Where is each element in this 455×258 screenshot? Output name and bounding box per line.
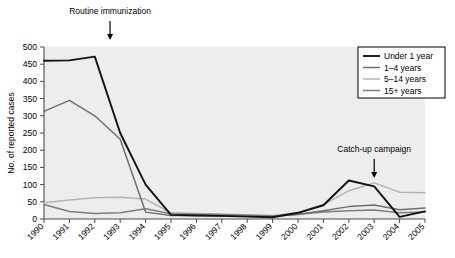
chart-legend: Under 1 year1–4 years5–14 years15+ years: [358, 47, 445, 98]
legend-label: 5–14 years: [384, 74, 426, 84]
annotation-label: Routine immunization: [69, 6, 151, 16]
annotation-label: Catch-up campaign: [337, 144, 411, 154]
legend-label: Under 1 year: [384, 51, 433, 61]
y-tick-label: 50: [28, 197, 38, 207]
y-tick-label: 400: [23, 76, 37, 86]
y-tick-label: 500: [23, 42, 37, 52]
legend-label: 15+ years: [384, 86, 422, 96]
y-tick-label: 250: [23, 128, 37, 138]
legend-label: 1–4 years: [384, 63, 421, 73]
y-tick-label: 100: [23, 180, 37, 190]
chart-figure: 050100150200250300350400450500 199019911…: [0, 0, 455, 258]
y-axis-title: No. of reported cases: [6, 92, 16, 173]
y-tick-label: 350: [23, 94, 37, 104]
y-tick-label: 200: [23, 145, 37, 155]
y-tick-label: 150: [23, 162, 37, 172]
y-tick-label: 450: [23, 59, 37, 69]
y-tick-label: 300: [23, 111, 37, 121]
